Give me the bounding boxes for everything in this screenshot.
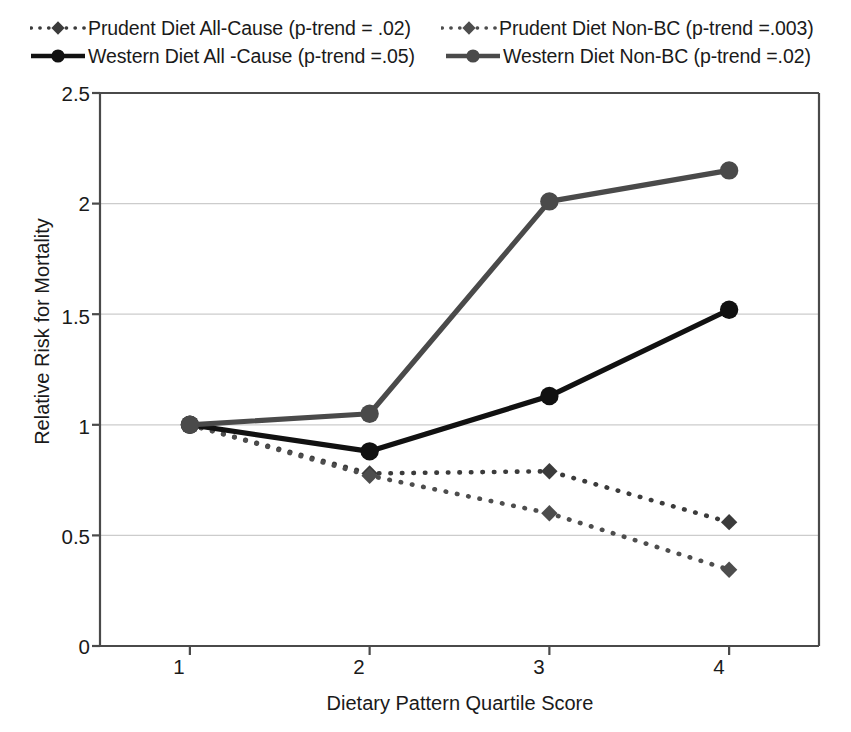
series-1 xyxy=(182,417,738,578)
series-2 xyxy=(181,301,739,461)
data-series xyxy=(181,161,739,578)
chart-figure: Prudent Diet All-Cause (p-trend = .02) P… xyxy=(0,0,851,732)
series-3 xyxy=(181,161,739,434)
axis-ticks xyxy=(92,93,729,655)
chart-canvas xyxy=(0,0,851,732)
gridlines xyxy=(100,93,819,535)
plot-area: 2.5 2 1.5 1 0.5 0 1 2 3 4 Relative Risk … xyxy=(0,0,851,732)
